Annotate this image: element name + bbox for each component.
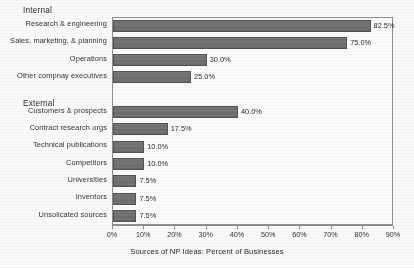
x-tick-label: 80% [355,230,369,239]
bar [113,141,144,153]
x-tick-label: 20% [167,230,181,239]
bar-row: Inventors7.5% [0,190,414,207]
bar-value-label: 7.5% [139,210,156,222]
bar-row-label: Unsolicated sources [0,210,107,219]
bar-value-label: 10.0% [147,158,168,170]
bar-wrapper: 75.0% [113,37,414,49]
bar [113,54,207,66]
bar-value-label: 7.5% [139,193,156,205]
bar [113,106,238,118]
bar-wrapper: 7.5% [113,193,414,205]
bar-chart: Internal External Research & engineering… [0,0,414,268]
x-tick-label: 70% [323,230,337,239]
x-tick-mark [362,226,363,229]
bar-wrapper: 17.5% [113,123,414,135]
x-tick-mark [393,226,394,229]
x-axis-ticks: 0%10%20%30%40%50%60%70%80%90% [112,226,393,246]
bar-row-label: Competitors [0,158,107,167]
bar-wrapper: 7.5% [113,175,414,187]
bar-wrapper: 82.5% [113,20,414,32]
bar-wrapper: 10.0% [113,141,414,153]
x-tick-mark [206,226,207,229]
x-tick-label: 50% [261,230,275,239]
x-tick-label: 0% [107,230,117,239]
x-tick-mark [237,226,238,229]
bar-wrapper: 30.0% [113,54,414,66]
bar-row-label: Research & engineering [0,19,107,28]
bar-row: Other compnay executives25.0% [0,69,414,86]
x-tick-mark [268,226,269,229]
bar-row: Competitors10.0% [0,156,414,173]
bar-row: Sales, marketing, & planning75.0% [0,34,414,51]
bar-value-label: 40.0% [241,106,262,118]
bar-row-label: Other compnay executives [0,71,107,80]
bar-row-label: Sales, marketing, & planning [0,36,107,45]
bar [113,37,347,49]
bar-rows: Research & engineering82.5%Sales, market… [0,17,414,225]
bar-wrapper: 7.5% [113,210,414,222]
bar-row: Operations30.0% [0,52,414,69]
bar [113,210,136,222]
bar [113,71,191,83]
group-heading-internal: Internal [23,6,52,15]
x-tick-label: 90% [386,230,400,239]
x-tick-label: 10% [136,230,150,239]
bar-wrapper: 40.0% [113,106,414,118]
bar-wrapper: 10.0% [113,158,414,170]
bar-row-label: Contract research orgs [0,123,107,132]
bar [113,20,371,32]
bar [113,158,144,170]
bar-value-label: 75.0% [350,37,371,49]
bar-row-label: Inventors [0,192,107,201]
bar-row-label: Universities [0,175,107,184]
bar-value-label: 25.0% [194,71,215,83]
bar-value-label: 10.0% [147,141,168,153]
x-tick-mark [174,226,175,229]
bar [113,193,136,205]
bar [113,175,136,187]
bar-value-label: 30.0% [210,54,231,66]
bar-row-label: Operations [0,54,107,63]
x-tick-mark [331,226,332,229]
bar-row: Contract research orgs17.5% [0,121,414,138]
bar-row: Research & engineering82.5% [0,17,414,34]
bar-row: Customers & prospects40.0% [0,104,414,121]
x-tick-label: 40% [230,230,244,239]
x-axis-title: Sources of NP Ideas: Percent of Business… [0,247,414,256]
x-tick-mark [299,226,300,229]
bar-row-label: Technical publications [0,140,107,149]
bar-row-spacer [0,86,414,103]
x-tick-mark [112,226,113,229]
bar-value-label: 7.5% [139,175,156,187]
bar [113,123,168,135]
bar-value-label: 17.5% [171,123,192,135]
bar-row: Universities7.5% [0,173,414,190]
x-tick-label: 30% [198,230,212,239]
bar-row: Unsolicated sources7.5% [0,208,414,225]
bar-wrapper: 25.0% [113,71,414,83]
bar-row-label: Customers & prospects [0,106,107,115]
x-tick-mark [143,226,144,229]
x-tick-label: 60% [292,230,306,239]
bar-value-label: 82.5% [374,20,395,32]
bar-row: Technical publications10.0% [0,138,414,155]
